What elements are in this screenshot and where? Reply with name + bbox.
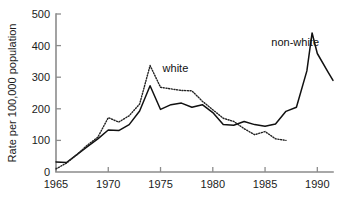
series-annotation-non-white: non-white	[271, 36, 319, 48]
line-chart: Rate per 100,000 population 010020030040…	[0, 0, 337, 201]
y-axis-title-label: Rate per 100,000 population	[6, 24, 18, 163]
series-annotation-white: white	[162, 62, 189, 74]
y-tick-label: 300	[32, 71, 50, 83]
series-layer	[56, 33, 333, 169]
x-tick-label: 1975	[148, 178, 172, 190]
x-tick-label: 1965	[44, 178, 68, 190]
chart-container: Rate per 100,000 population 010020030040…	[0, 0, 337, 201]
x-axis-ticks: 196519701975198019851990	[44, 167, 330, 190]
annotation-layer: whitenon-white	[162, 36, 319, 74]
y-tick-label: 400	[32, 40, 50, 52]
y-axis-title: Rate per 100,000 population	[6, 24, 18, 163]
y-tick-label: 500	[32, 8, 50, 20]
x-tick-label: 1980	[201, 178, 225, 190]
x-tick-label: 1990	[305, 178, 329, 190]
series-line-white	[56, 66, 286, 169]
y-tick-label: 100	[32, 134, 50, 146]
x-tick-label: 1985	[253, 178, 277, 190]
y-tick-label: 200	[32, 103, 50, 115]
x-tick-label: 1970	[96, 178, 120, 190]
y-tick-label: 0	[44, 166, 50, 178]
series-line-non-white	[56, 33, 333, 163]
